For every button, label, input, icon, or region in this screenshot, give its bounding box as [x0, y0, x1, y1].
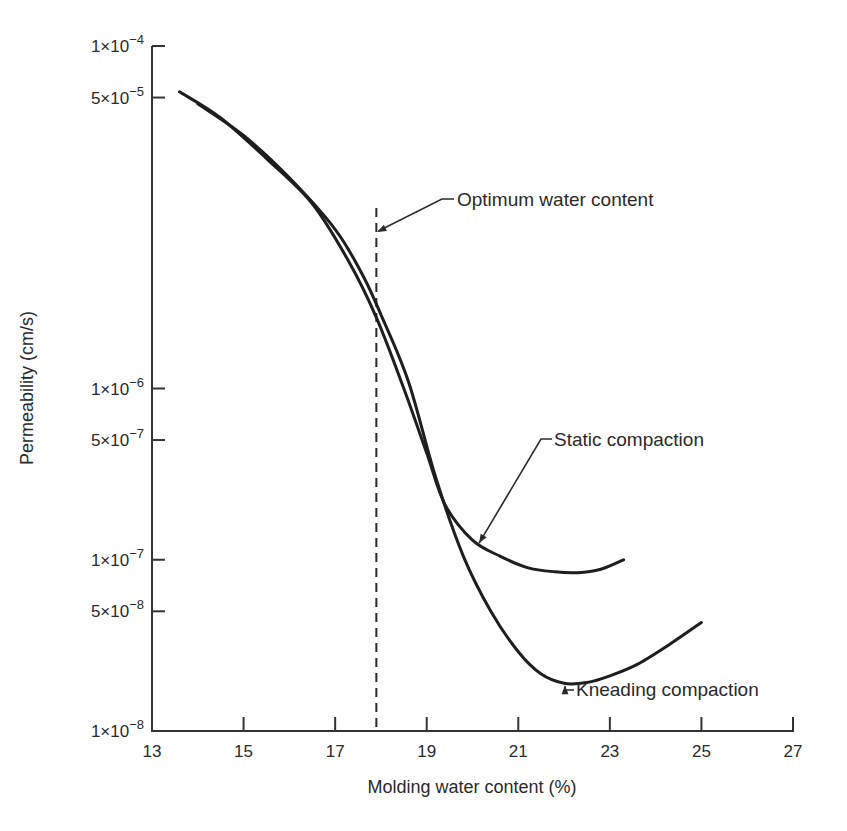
y-axis-ticks: 1×10−45×10−51×10−65×10−71×10−75×10−81×10…: [91, 32, 165, 741]
x-tick-label: 15: [234, 742, 253, 761]
optimum-label: Optimum water content: [457, 189, 654, 210]
kneading-compaction-annotation: Kneading compaction: [562, 679, 759, 700]
y-tick-label: 1×10−6: [91, 375, 144, 399]
arrowhead-icon: [377, 225, 387, 232]
y-tick-label: 1×10−8: [91, 717, 144, 741]
y-tick-label: 1×10−4: [91, 32, 144, 56]
x-axis-ticks: 1315171921232527: [143, 717, 803, 761]
static-leader-arrow: [479, 439, 552, 543]
kneading-compaction-label: Kneading compaction: [576, 679, 759, 700]
x-tick-label: 27: [784, 742, 803, 761]
arrowhead-icon: [479, 534, 487, 544]
y-axis-title: Permeability (cm/s): [17, 311, 37, 465]
y-tick-label: 5×10−8: [91, 597, 144, 621]
x-tick-label: 25: [692, 742, 711, 761]
permeability-chart: 1×10−45×10−51×10−65×10−71×10−75×10−81×10…: [0, 0, 847, 831]
x-tick-label: 17: [326, 742, 345, 761]
optimum-leader-arrow: [378, 199, 454, 231]
y-tick-label: 1×10−7: [91, 546, 144, 570]
y-tick-label: 5×10−5: [91, 84, 144, 108]
static-compaction-curve: [180, 92, 624, 573]
y-tick-label: 5×10−7: [91, 426, 144, 450]
x-tick-label: 23: [600, 742, 619, 761]
static-compaction-label: Static compaction: [554, 429, 704, 450]
x-tick-label: 19: [417, 742, 436, 761]
axes: [151, 46, 794, 732]
static-compaction-annotation: Static compaction: [479, 429, 704, 543]
x-tick-label: 21: [509, 742, 528, 761]
x-tick-label: 13: [143, 742, 162, 761]
x-axis-title: Molding water content (%): [367, 777, 576, 797]
